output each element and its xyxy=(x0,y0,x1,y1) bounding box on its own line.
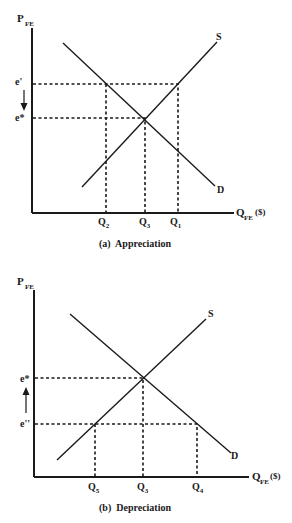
quantity-label-q3: Q3 xyxy=(137,481,149,495)
y-axis-label-sub: FE xyxy=(25,20,34,28)
arrow-up-icon xyxy=(23,387,30,413)
arrow-down-icon xyxy=(21,90,28,111)
y-axis-label: P xyxy=(17,275,24,287)
panel-depreciation: P FE Q FE ($) S D e* e'' Q5 Q3 Q4 (b) De… xyxy=(17,275,281,514)
x-axis-label-sub: FE xyxy=(244,214,253,222)
exchange-rate-diagrams: P FE Q FE ($) S D e' e* Q2 Q3 Q1 (a) App… xyxy=(0,0,292,523)
price-label-e-double-prime: e'' xyxy=(20,418,30,429)
x-axis-label-sub: FE xyxy=(260,478,269,486)
x-axis-unit: ($) xyxy=(270,471,281,481)
supply-curve xyxy=(82,42,217,187)
equilibrium-guide xyxy=(35,378,143,476)
y-axis-label: P xyxy=(17,12,24,24)
caption-appreciation: (a) Appreciation xyxy=(99,238,171,250)
x-axis-unit: ($) xyxy=(255,207,266,217)
price-label-e-prime: e' xyxy=(15,76,22,87)
quantity-label-q2: Q2 xyxy=(98,216,110,230)
supply-curve xyxy=(57,319,206,460)
y-axis-label-sub: FE xyxy=(25,283,34,291)
quantity-label-q5: Q5 xyxy=(88,481,100,495)
equilibrium-guide xyxy=(33,118,145,212)
demand-curve xyxy=(63,43,215,186)
quantity-label-q3: Q3 xyxy=(139,216,151,230)
panel-appreciation: P FE Q FE ($) S D e' e* Q2 Q3 Q1 (a) App… xyxy=(15,12,266,250)
demand-label: D xyxy=(231,450,238,461)
demand-label: D xyxy=(217,184,224,195)
quantity-label-q1: Q1 xyxy=(170,216,182,230)
price-label-e-star: e* xyxy=(15,112,24,123)
caption-depreciation: (b) Depreciation xyxy=(99,502,171,514)
quantity-label-q4: Q4 xyxy=(192,481,204,495)
supply-label: S xyxy=(208,308,214,319)
demand-curve xyxy=(70,314,231,453)
supply-label: S xyxy=(216,31,222,42)
price-e-double-prime-guide xyxy=(35,424,197,476)
price-label-e-star: e* xyxy=(20,373,29,384)
